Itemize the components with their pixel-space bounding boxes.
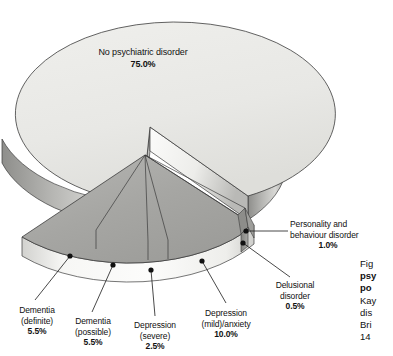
caption-line: dis	[360, 307, 393, 319]
label-text-line2: disorder	[262, 291, 328, 302]
label-percent: 10.0%	[185, 329, 267, 340]
label-personality-behaviour-disorder: Personality and behaviour disorder 1.0%	[290, 219, 390, 251]
label-text: No psychiatric disorder	[63, 46, 223, 58]
label-text-line1: Dementia	[6, 305, 68, 316]
label-percent: 0.5%	[262, 301, 328, 312]
label-depression-mild-anxiety: Depression (mild)/anxiety 10.0%	[185, 308, 267, 340]
dot-personality	[243, 228, 248, 233]
pie-chart-figure: No psychiatric disorder 75.0% Dementia (…	[0, 0, 393, 356]
caption-line: Kay	[360, 295, 393, 307]
label-percent: 2.5%	[122, 341, 188, 352]
label-dementia-definite: Dementia (definite) 5.5%	[6, 305, 68, 337]
figure-caption: FigpsypoKaydisBri14	[360, 258, 393, 343]
label-text-line1: Dementia	[62, 316, 124, 327]
label-delusional-disorder: Delusional disorder 0.5%	[262, 280, 328, 312]
label-percent: 5.5%	[6, 326, 68, 337]
label-percent: 75.0%	[63, 58, 223, 70]
caption-line: 14	[360, 331, 393, 343]
label-text-line2: behaviour disorder	[290, 230, 390, 241]
caption-line: po	[360, 282, 393, 294]
label-text-line2: (severe)	[122, 331, 188, 342]
label-percent: 5.5%	[62, 337, 124, 348]
label-dementia-possible: Dementia (possible) 5.5%	[62, 316, 124, 348]
caption-line: Bri	[360, 319, 393, 331]
dot-depression-mild	[199, 258, 204, 263]
label-text-line1: Depression	[122, 320, 188, 331]
label-text-line1: Personality and	[290, 219, 390, 230]
dot-dementia-definite	[67, 253, 72, 258]
dot-delusional	[240, 240, 245, 245]
label-no-psychiatric-disorder: No psychiatric disorder 75.0%	[63, 46, 223, 70]
label-text-line1: Depression	[185, 308, 267, 319]
leader-delusional	[243, 243, 290, 277]
label-text-line2: (definite)	[6, 316, 68, 327]
label-text-line2: (mild)/anxiety	[185, 319, 267, 330]
label-text-line1: Delusional	[262, 280, 328, 291]
caption-line: Fig	[360, 258, 393, 270]
caption-line: psy	[360, 270, 393, 282]
label-text-line2: (possible)	[62, 327, 124, 338]
label-percent: 1.0%	[290, 240, 366, 251]
dot-depression-severe	[148, 267, 153, 272]
label-depression-severe: Depression (severe) 2.5%	[122, 320, 188, 352]
dot-dementia-possible	[110, 262, 115, 267]
